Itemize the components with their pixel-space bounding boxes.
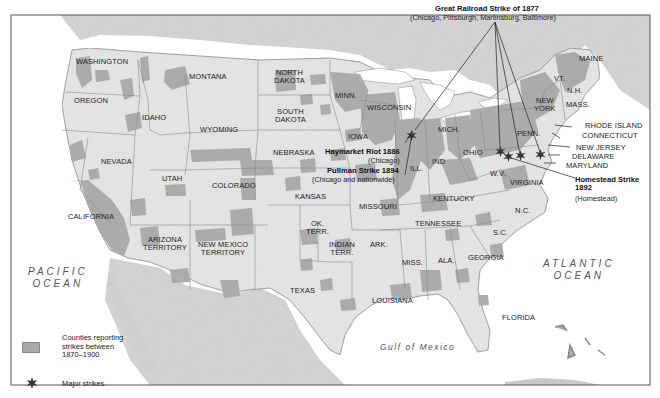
state-label-ala: ALA. xyxy=(438,257,455,265)
homestead-title-line2: 1892 xyxy=(575,184,639,192)
legend-counties-label: Counties reporting strikes between 1870–… xyxy=(62,334,123,360)
state-label-california: CALIFORNIA xyxy=(68,213,114,221)
state-label-nh: N.H. xyxy=(567,87,582,95)
state-label-oregon: OREGON xyxy=(74,97,108,105)
state-label-new-york: NEW YORK xyxy=(534,97,556,113)
pacific-line2: OCEAN xyxy=(28,278,88,290)
state-label-nc: N.C. xyxy=(515,207,530,215)
state-label-kansas: KANSAS xyxy=(295,193,326,201)
state-label-south-dakota: SOUTH DAKOTA xyxy=(275,108,306,124)
strike-counties-swatch xyxy=(22,342,40,353)
state-label-indian-terr: INDIAN TERR. xyxy=(329,241,355,257)
haymarket-riot-location: (Chicago) xyxy=(368,157,400,165)
north-dakota-line2: DAKOTA xyxy=(274,77,305,85)
state-label-sc: S.C. xyxy=(493,229,508,237)
state-label-delaware: DELAWARE xyxy=(572,153,614,161)
state-label-penn: PENN. xyxy=(517,130,540,138)
state-label-ill: ILL. xyxy=(410,165,423,173)
pacific-ocean-label: PACIFIC OCEAN xyxy=(28,266,88,289)
atlantic-ocean-label: ATLANTIC OCEAN xyxy=(543,258,615,281)
state-label-utah: UTAH xyxy=(162,175,182,183)
state-label-wisconsin: WISCONSIN xyxy=(367,104,411,112)
state-label-washington: WASHINGTON xyxy=(76,58,128,66)
state-label-ind: IND xyxy=(432,158,445,166)
legend-major-strikes-label: Major strikes xyxy=(62,379,105,388)
state-label-ok-terr: OK. TERR. xyxy=(306,220,329,236)
state-label-mass: MASS. xyxy=(566,101,590,109)
state-label-tennessee: TENNESSEE xyxy=(415,220,461,228)
state-label-maryland: MARYLAND xyxy=(566,162,608,170)
state-label-new-mexico: NEW MEXICO TERRITORY xyxy=(198,241,248,257)
state-label-texas: TEXAS xyxy=(290,287,315,295)
atlantic-line2: OCEAN xyxy=(543,270,615,282)
state-label-virginia: VIRGINIA xyxy=(510,179,544,187)
arizona-line2: TERRITORY xyxy=(143,244,187,252)
state-label-new-jersey: NEW JERSEY xyxy=(576,144,626,152)
state-label-north-dakota: NORTH DAKOTA xyxy=(274,69,305,85)
gulf-of-mexico-label: Gulf of Mexico xyxy=(380,342,455,352)
south-dakota-line2: DAKOTA xyxy=(275,116,306,124)
state-label-miss: MISS. xyxy=(402,259,423,267)
state-label-maine: MAINE xyxy=(579,55,603,63)
state-label-montana: MONTANA xyxy=(189,73,227,81)
state-label-florida: FLORIDA xyxy=(502,314,535,322)
state-label-missouri: MISSOURI xyxy=(359,203,397,211)
pullman-strike-locations: (Chicago and nationwide) xyxy=(312,176,395,184)
ok-terr-line2: TERR. xyxy=(306,228,329,236)
state-label-ark: ARK. xyxy=(370,241,388,249)
indian-terr-line2: TERR. xyxy=(329,249,355,257)
state-label-louisiana: LOUISIANA xyxy=(372,297,413,305)
pacific-line1: PACIFIC xyxy=(28,266,88,278)
great-railroad-strike-locations: (Chicago, Pittsburgh, Martinsburg, Balti… xyxy=(410,14,556,22)
state-label-mich: MICH. xyxy=(438,126,460,134)
state-label-wv: W.V. xyxy=(490,170,506,178)
state-label-georgia: GEORGIA xyxy=(468,254,504,262)
legend-counties-line3: 1870–1900 xyxy=(62,351,123,360)
state-label-iowa: IOWA xyxy=(348,133,368,141)
new-york-line2: YORK xyxy=(534,105,556,113)
state-label-colorado: COLORADO xyxy=(212,182,256,190)
homestead-strike-title: Homestead Strike 1892 xyxy=(575,176,639,193)
state-label-wyoming: WYOMING xyxy=(200,126,238,134)
new-mexico-line2: TERRITORY xyxy=(198,249,248,257)
major-strike-star-icon xyxy=(26,377,38,389)
state-label-idaho: IDAHO xyxy=(142,114,166,122)
homestead-strike-location: (Homestead) xyxy=(575,195,617,203)
state-label-arizona: ARIZONA TERRITORY xyxy=(143,236,187,252)
state-label-rhode-island: RHODE ISLAND xyxy=(585,122,642,130)
state-label-vt: VT. xyxy=(554,75,565,83)
state-label-minn: MINN. xyxy=(335,92,357,100)
state-label-connecticut: CONNECTICUT xyxy=(582,132,638,140)
state-label-kentucky: KENTUCKY xyxy=(433,195,475,203)
state-label-nebraska: NEBRASKA xyxy=(273,149,315,157)
state-label-ohio: OHIO xyxy=(463,149,483,157)
state-label-nevada: NEVADA xyxy=(101,158,132,166)
atlantic-line1: ATLANTIC xyxy=(543,258,615,270)
